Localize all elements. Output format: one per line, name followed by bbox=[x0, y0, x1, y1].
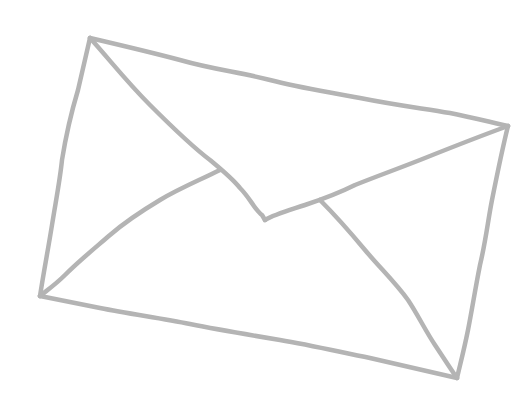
envelope-bottom-edge bbox=[40, 296, 457, 378]
envelope-drawing-canvas bbox=[0, 0, 530, 393]
envelope-bottom-left-diagonal bbox=[40, 170, 220, 296]
envelope-lines bbox=[40, 38, 508, 378]
envelope-right-edge bbox=[457, 126, 508, 378]
envelope-top-edge bbox=[90, 38, 508, 126]
envelope-icon bbox=[0, 0, 530, 393]
envelope-flap-right bbox=[265, 126, 508, 220]
